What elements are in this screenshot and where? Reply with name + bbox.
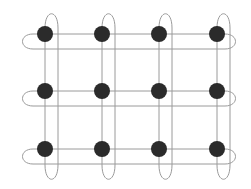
row-loops bbox=[23, 34, 236, 164]
column-loops bbox=[45, 14, 230, 180]
row-loop-1 bbox=[23, 34, 236, 49]
lattice-diagram bbox=[0, 0, 251, 189]
node-r1-c1 bbox=[37, 26, 53, 42]
node-r2-c1 bbox=[37, 83, 53, 99]
node-r3-c4 bbox=[209, 141, 225, 157]
node-r1-c4 bbox=[209, 26, 225, 42]
node-r2-c2 bbox=[94, 83, 110, 99]
row-loop-2 bbox=[23, 91, 236, 106]
node-r2-c4 bbox=[209, 83, 225, 99]
row-loop-3 bbox=[23, 149, 236, 164]
node-r3-c3 bbox=[151, 141, 167, 157]
node-r3-c2 bbox=[94, 141, 110, 157]
node-r1-c3 bbox=[151, 26, 167, 42]
node-r3-c1 bbox=[37, 141, 53, 157]
node-r1-c2 bbox=[94, 26, 110, 42]
node-r2-c3 bbox=[151, 83, 167, 99]
